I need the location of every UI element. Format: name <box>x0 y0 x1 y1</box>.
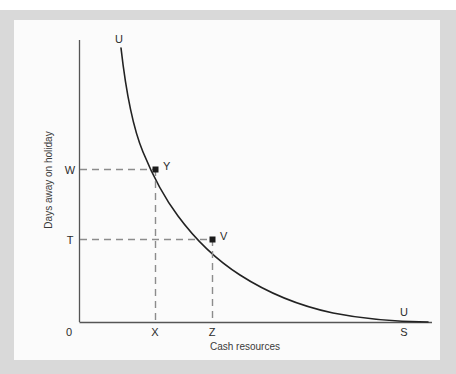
figure-root: Y V U U S 0 X Z W T Cash resources Days … <box>0 0 456 374</box>
y-axis-title: Days away on holiday <box>43 131 54 228</box>
curve-end-label-u: U <box>400 306 408 318</box>
origin-label: 0 <box>66 326 72 338</box>
point-label-v: V <box>220 230 228 242</box>
indifference-curve-chart: Y V U U S 0 X Z W T Cash resources Days … <box>0 0 456 374</box>
axis-end-label-s: S <box>400 326 407 338</box>
x-tick-label-x: X <box>151 326 159 338</box>
point-marker-v <box>210 237 216 243</box>
indifference-curve <box>121 48 428 322</box>
point-marker-y <box>153 167 159 173</box>
x-tick-label-z: Z <box>209 326 216 338</box>
y-tick-label-w: W <box>65 164 76 176</box>
curve-top-label-u: U <box>115 33 123 45</box>
point-label-y: Y <box>163 160 171 172</box>
y-tick-label-t: T <box>67 234 74 246</box>
x-axis-title: Cash resources <box>210 341 280 352</box>
